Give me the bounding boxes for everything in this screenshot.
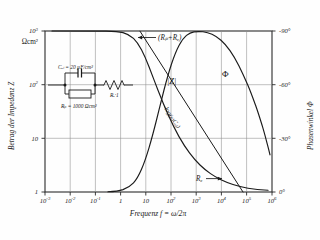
inset-resistor-series-label: Rₑ·1 [109, 92, 119, 98]
inset-resistor-parallel-label: Rₚ = 1000 Ωcm² [60, 103, 97, 109]
inset-capacitor-label: Cₑₗ = 20 µF/cm² [58, 64, 93, 70]
y-left-tick-label: 1 [35, 188, 38, 195]
x-tick-label: 105 [242, 196, 252, 204]
y-left-unit: Ωcm² [22, 38, 38, 46]
y-left-tick-label: 103 [29, 27, 39, 35]
impedance-curve-label: |Z| [167, 77, 176, 86]
y-right-tick-labels: 0° -30° -60° -90° [279, 27, 291, 195]
x-tick-label: 106 [268, 196, 278, 204]
y-left-tick-labels: 1 10 102 103 [29, 27, 39, 196]
r-e-label: Rₑ [195, 175, 202, 183]
phase-curve-label: Φ [222, 69, 229, 79]
y-right-axis-title: Phasenwinkel Φ [306, 101, 315, 151]
y-right-tick-label: -30° [279, 135, 291, 142]
figure-root: 10-3 10-2 10-1 1 10 102 103 104 105 [0, 0, 320, 240]
y-left-axis-title: Betrag der Impedanz Z [7, 81, 16, 150]
y-right-tick-label: -60° [279, 81, 291, 88]
y-right-tick-label: -90° [279, 27, 291, 34]
bode-plot-svg: 10-3 10-2 10-1 1 10 102 103 104 105 [0, 0, 320, 240]
x-tick-labels: 10-3 10-2 10-1 1 10 102 103 104 105 [40, 196, 277, 204]
r-sum-label: (Rₚ+Rₑ) [158, 34, 182, 42]
x-axis-title: Frequenz f = ω/2π [129, 209, 187, 218]
y-left-tick-label: 102 [29, 80, 39, 88]
x-tick-label: 10-3 [40, 196, 51, 204]
y-left-tick-label: 10 [31, 135, 38, 142]
x-tick-label: 10-1 [90, 196, 101, 204]
y-right-tick-label: 0° [279, 188, 285, 195]
x-tick-label: 102 [167, 196, 177, 204]
x-tick-label: 104 [217, 196, 227, 204]
x-tick-label: 1 [119, 197, 122, 204]
x-tick-label: 103 [192, 196, 202, 204]
x-tick-label: 10 [143, 197, 150, 204]
x-tick-label: 10-2 [65, 196, 76, 204]
